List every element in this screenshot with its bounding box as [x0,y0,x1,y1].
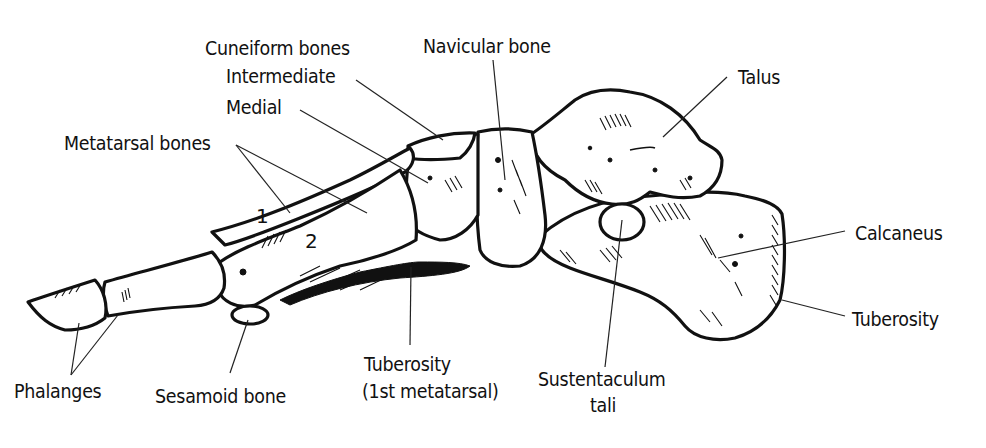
label-navicular-bone: Navicular bone [423,35,551,57]
label-sesamoid-bone: Sesamoid bone [155,385,286,407]
talus-bone [530,90,722,204]
calcaneus-bone [539,192,784,339]
label-tuberosity-1st-metatarsal-sub: (1st metatarsal) [362,380,499,402]
label-tuberosity-1st-metatarsal: Tuberosity [364,353,451,375]
metatarsal-number-2: 2 [305,229,318,253]
label-medial-cuneiform: Medial [226,96,282,118]
label-intermediate-cuneiform: Intermediate [226,65,335,87]
label-talus: Talus [738,66,780,88]
label-sustentaculum: Sustentaculum [538,368,666,390]
label-calcaneus: Calcaneus [855,222,943,244]
label-tuberosity-calcaneus: Tuberosity [852,308,939,330]
label-metatarsal-bones: Metatarsal bones [64,132,211,154]
foot-bones-diagram: Cuneiform bones Intermediate Medial Navi… [0,0,986,448]
metatarsal-number-1: 1 [256,204,269,228]
label-sustentaculum-tali: tali [590,394,616,416]
label-cuneiform-bones: Cuneiform bones [205,37,350,59]
phalanges-bones [28,252,225,330]
navicular-bone [476,129,545,266]
label-phalanges: Phalanges [14,380,101,402]
sesamoid-bone [232,306,268,324]
